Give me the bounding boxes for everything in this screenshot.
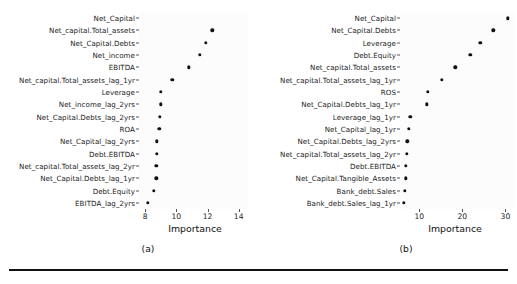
x-axis-tick-label: 12 [203,212,213,221]
y-axis-tick-mark [397,178,400,179]
y-axis-tick-label: Net_income_lag_2yrs [0,100,135,109]
y-axis-tick-mark [136,92,139,93]
y-axis-tick-mark [136,55,139,56]
y-axis-tick-mark [136,141,139,142]
x-axis-tick-label: 8 [143,212,148,221]
y-axis-tick-mark [136,79,139,80]
y-axis-tick-mark [136,104,139,105]
y-axis-tick-mark [397,55,400,56]
subplot-panel-b: Net_CapitalNet_Capital.DebtsLeverageDebt… [258,0,517,262]
y-axis-tick-mark [136,153,139,154]
subplot-panel-a: Net_CapitalNet_capital.Total_assetsNet_C… [0,0,258,262]
y-axis-tick-label: Debt.Equity [258,51,396,60]
figure-container: Net_CapitalNet_capital.Total_assetsNet_C… [0,0,517,284]
y-axis-tick-mark [136,30,139,31]
y-axis-tick-mark [136,128,139,129]
y-axis-tick-mark [397,153,400,154]
y-axis-tick-label: Net_Capital.Debts_lag_1yr [0,174,135,183]
y-axis-tick-label: Net_Capital.Tangible_Assets [258,174,396,183]
x-axis-title: Importance [168,223,222,234]
x-axis-tick-label: 14 [234,212,244,221]
y-axis-tick-mark [397,190,400,191]
x-axis-tick-label: 20 [458,212,468,221]
y-axis-tick-mark [136,165,139,166]
y-axis-tick-mark [397,79,400,80]
y-axis-tick-mark [136,202,139,203]
y-axis-tick-label: EBITDA [0,63,135,72]
y-axis-tick-label: Net_Capital.Debts_lag_2yrs [0,112,135,121]
subplot-caption-a: (a) [142,243,155,254]
y-axis-tick-mark [397,116,400,117]
y-axis-tick-mark [397,67,400,68]
y-axis-tick-label: Net_capital.Total_assets [0,26,135,35]
x-axis-tick-label: 30 [501,212,511,221]
x-axis-title: Importance [428,223,482,234]
plot-wrapper-a: Net_CapitalNet_capital.Total_assetsNet_C… [0,0,258,262]
y-axis-tick-label: Net_Capital_lag_2yrs [0,137,135,146]
y-axis-tick-label: Net_capital.Total_assets_lag_2yr [0,161,135,170]
y-axis-tick-label: Leverage [0,88,135,97]
y-axis-tick-label: Net_Capital [0,14,135,23]
y-axis-tick-label: Bank_debt.Sales_lag_1yr [258,198,396,207]
horizontal-rule [9,269,508,271]
y-axis-tick-label: Net_capital.Total_assets [258,63,396,72]
x-axis-tick-label: 10 [415,212,425,221]
y-axis-tick-mark [397,30,400,31]
plot-wrapper-b: Net_CapitalNet_Capital.DebtsLeverageDebt… [258,0,517,262]
x-axis-tick-label: 10 [172,212,182,221]
y-axis-tick-label: Bank_debt.Sales [258,186,396,195]
y-axis-tick-mark [397,18,400,19]
y-axis-tick-mark [397,128,400,129]
y-axis-tick-label: Net_Capital [258,14,396,23]
plot-area-b [400,12,514,209]
y-axis-tick-label: Leverage [258,38,396,47]
y-axis-tick-mark [397,202,400,203]
y-axis-tick-label: Debt.EBITDA [0,149,135,158]
y-axis-tick-mark [397,104,400,105]
y-axis-tick-mark [397,165,400,166]
y-axis-tick-label: Debt.Equity [0,186,135,195]
y-axis-tick-label: Net_capital.Total_assets_lag_1yr [0,75,135,84]
y-axis-tick-mark [136,190,139,191]
y-axis-tick-mark [136,42,139,43]
y-axis-tick-label: Net_Capital.Debts_lag_1yr [258,100,396,109]
y-axis-tick-label: ROS [258,88,396,97]
y-axis-tick-label: Net_Capital.Debts_lag_2yrs [258,137,396,146]
y-axis-tick-mark [397,42,400,43]
y-axis-tick-label: Leverage_lag_1yr [258,112,396,121]
y-axis-tick-mark [397,92,400,93]
y-axis-tick-mark [136,178,139,179]
y-axis-tick-label: Net_Capital_lag_1yr [258,124,396,133]
y-axis-tick-label: Net_Capital.Debts [0,38,135,47]
y-axis-tick-label: Net_Capital.Debts [258,26,396,35]
subplot-caption-b: (b) [399,243,412,254]
y-axis-tick-label: Net_income [0,51,135,60]
y-axis-tick-mark [136,18,139,19]
y-axis-tick-mark [136,67,139,68]
y-axis-tick-label: Debt.EBITDA [258,161,396,170]
y-axis-tick-label: Net_capital.Total_assets_lag_1yr [258,75,396,84]
y-axis-tick-label: ROA [0,124,135,133]
y-axis-tick-mark [397,141,400,142]
y-axis-tick-mark [136,116,139,117]
y-axis-tick-label: EBITDA_lag_2yrs [0,198,135,207]
y-axis-tick-label: Net_capital.Total_assets_lag_2yr [258,149,396,158]
